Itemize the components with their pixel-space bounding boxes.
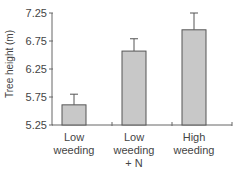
bar (62, 105, 86, 125)
category-label: weeding (53, 144, 95, 156)
bar-group (182, 13, 206, 125)
category-label: Low (64, 131, 84, 143)
bar-group (62, 94, 86, 125)
category-label: + N (125, 157, 142, 169)
bar (122, 51, 146, 125)
category-label: Low (124, 131, 144, 143)
y-tick-label: 5.25 (26, 119, 47, 131)
category-label: weeding (173, 144, 215, 156)
y-tick-label: 5.75 (26, 91, 47, 103)
bar-group (122, 39, 146, 125)
y-tick-label: 7.25 (26, 7, 47, 19)
category-label: High (183, 131, 206, 143)
bar-chart: 5.255.756.256.757.25Tree height (m)Lowwe… (0, 0, 248, 175)
category-label: weeding (113, 144, 155, 156)
y-tick-label: 6.75 (26, 35, 47, 47)
bar (182, 30, 206, 125)
y-tick-label: 6.25 (26, 63, 47, 75)
y-axis-title: Tree height (m) (4, 30, 15, 98)
